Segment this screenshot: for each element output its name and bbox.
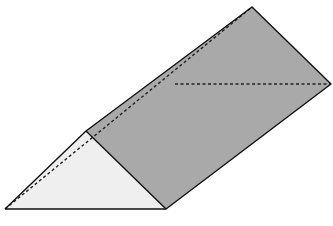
triangular-prism-diagram — [0, 0, 333, 226]
diagram-canvas — [0, 0, 333, 226]
